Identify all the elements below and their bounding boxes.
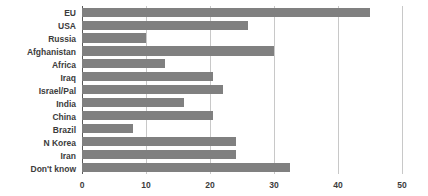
bar-china bbox=[82, 111, 213, 120]
bar-afghanistan bbox=[82, 46, 274, 55]
category-label-russia: Russia bbox=[0, 34, 76, 44]
category-label-text: Israel/Pal bbox=[39, 86, 76, 96]
category-label-israel-pal: Israel/Pal bbox=[0, 86, 76, 96]
category-label-text: India bbox=[56, 99, 76, 109]
bar-russia bbox=[82, 33, 146, 42]
category-label-text: N Korea bbox=[43, 138, 76, 148]
bar-chart: EU USA Russia Afghanistan Africa Iraq Is… bbox=[0, 0, 428, 196]
x-tick-30: 30 bbox=[269, 180, 278, 190]
category-label-text: Afghanistan bbox=[27, 47, 76, 57]
bar-row bbox=[82, 45, 402, 58]
x-tick-40: 40 bbox=[333, 180, 342, 190]
bar-eu bbox=[82, 8, 370, 17]
bar-row bbox=[82, 19, 402, 32]
bar-row bbox=[82, 135, 402, 148]
bar-usa bbox=[82, 21, 248, 30]
category-label-text: Brazil bbox=[53, 125, 76, 135]
x-tick-0: 0 bbox=[80, 180, 85, 190]
bar-row bbox=[82, 148, 402, 161]
bar-row bbox=[82, 32, 402, 45]
x-tick-50: 50 bbox=[397, 180, 406, 190]
bar-row bbox=[82, 84, 402, 97]
bar-row bbox=[82, 6, 402, 19]
category-label-text: Don't know bbox=[31, 164, 76, 174]
bar-iran bbox=[82, 150, 236, 159]
category-label-iraq: Iraq bbox=[0, 73, 76, 83]
bar-row bbox=[82, 122, 402, 135]
category-label-text: Russia bbox=[48, 34, 76, 44]
category-label-text: Africa bbox=[52, 60, 76, 70]
category-label-dont-know: Don't know bbox=[0, 164, 76, 174]
bar-africa bbox=[82, 59, 165, 68]
bar-row bbox=[82, 109, 402, 122]
category-label-text: China bbox=[52, 112, 76, 122]
bar-row bbox=[82, 58, 402, 71]
category-label-eu: EU bbox=[0, 8, 76, 18]
category-label-usa: USA bbox=[0, 21, 76, 31]
category-label-iran: Iran bbox=[0, 151, 76, 161]
category-label-text: Iran bbox=[60, 151, 76, 161]
category-label-china: China bbox=[0, 112, 76, 122]
bar-row bbox=[82, 71, 402, 84]
bar-dont-know bbox=[82, 163, 290, 172]
bar-india bbox=[82, 98, 184, 107]
bar-row bbox=[82, 161, 402, 174]
bar-brazil bbox=[82, 124, 133, 133]
x-tick-20: 20 bbox=[205, 180, 214, 190]
category-label-afghanistan: Afghanistan bbox=[0, 47, 76, 57]
bar-n-korea bbox=[82, 137, 236, 146]
gridline-50 bbox=[402, 6, 403, 174]
category-label-n-korea: N Korea bbox=[0, 138, 76, 148]
plot-area bbox=[82, 6, 402, 174]
category-label-text: EU bbox=[64, 8, 76, 18]
x-tick-10: 10 bbox=[141, 180, 150, 190]
category-label-africa: Africa bbox=[0, 60, 76, 70]
category-label-text: Iraq bbox=[60, 73, 76, 83]
category-label-brazil: Brazil bbox=[0, 125, 76, 135]
bar-israel-pal bbox=[82, 85, 223, 94]
bar-row bbox=[82, 96, 402, 109]
category-label-india: India bbox=[0, 99, 76, 109]
bar-iraq bbox=[82, 72, 213, 81]
category-label-text: USA bbox=[58, 21, 76, 31]
